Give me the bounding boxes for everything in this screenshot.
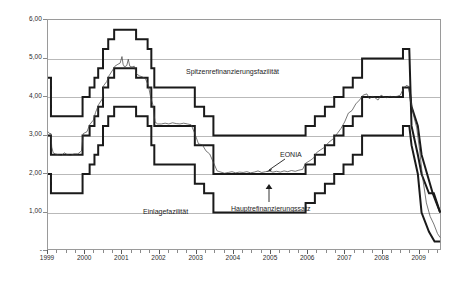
x-axis-minor-tick (103, 250, 104, 253)
x-axis-tick-label: 2006 (290, 255, 324, 262)
y-axis-tick-label: 1,00 (8, 208, 42, 215)
x-axis-minor-tick (93, 250, 94, 253)
y-axis-tick (43, 173, 47, 174)
x-axis-minor-tick (335, 250, 336, 253)
y-axis-tick (43, 212, 47, 213)
x-axis-tick-label: 2000 (67, 255, 101, 262)
x-axis-tick-label: 2003 (179, 255, 213, 262)
x-axis-tick-label: 2008 (365, 255, 399, 262)
chart-container: 6,005,004,003,002,001,00- 19992000200120… (0, 0, 465, 295)
x-axis-minor-tick (75, 250, 76, 253)
y-axis-tick (43, 58, 47, 59)
x-axis-tick-label: 2007 (327, 255, 361, 262)
x-axis-minor-tick (316, 250, 317, 253)
x-axis-minor-tick (400, 250, 401, 253)
y-axis-tick-label: - (8, 247, 42, 254)
x-axis-minor-tick (428, 250, 429, 253)
series-line-spitzenrefinanzierungsfazilitaet (48, 30, 440, 213)
x-axis-minor-tick (66, 250, 67, 253)
x-axis-minor-tick (391, 250, 392, 253)
x-axis-minor-tick (326, 250, 327, 253)
x-axis-minor-tick (140, 250, 141, 253)
x-axis-minor-tick (289, 250, 290, 253)
x-axis-minor-tick (205, 250, 206, 253)
x-axis-minor-tick (279, 250, 280, 253)
y-axis-tick-label: 4,00 (8, 93, 42, 100)
eonia-arrow-icon (265, 157, 287, 173)
y-axis-tick-label: 6,00 (8, 16, 42, 23)
x-axis-tick-label: 2004 (216, 255, 250, 262)
x-axis-minor-tick (409, 250, 410, 253)
x-axis-minor-tick (214, 250, 215, 253)
x-axis-tick (196, 250, 197, 254)
x-axis-tick (159, 250, 160, 254)
x-axis-minor-tick (298, 250, 299, 253)
x-axis-tick (270, 250, 271, 254)
plot-area (47, 19, 441, 250)
x-axis-minor-tick (112, 250, 113, 253)
y-axis-tick (43, 19, 47, 20)
annotation-hauptrefinanzierungssatz: Hauptrefinanzierungssatz (231, 205, 310, 212)
x-axis-minor-tick (186, 250, 187, 253)
x-axis-tick-label: 2001 (104, 255, 138, 262)
x-axis-minor-tick (224, 250, 225, 253)
x-axis-tick (419, 250, 420, 254)
x-axis-minor-tick (363, 250, 364, 253)
x-axis-tick-label: 1999 (30, 255, 64, 262)
series-layer (48, 20, 442, 251)
x-axis-minor-tick (149, 250, 150, 253)
x-axis-minor-tick (261, 250, 262, 253)
x-axis-minor-tick (168, 250, 169, 253)
y-axis-tick-label: 2,00 (8, 170, 42, 177)
x-axis-tick-label: 2005 (253, 255, 287, 262)
x-axis-tick-label: 2009 (402, 255, 436, 262)
annotation-einlagefazilitaet: Einlagefazilität (143, 208, 188, 215)
x-axis-tick (47, 250, 48, 254)
x-axis-minor-tick (177, 250, 178, 253)
x-axis-tick (344, 250, 345, 254)
x-axis-tick (382, 250, 383, 254)
y-axis-tick (43, 96, 47, 97)
x-axis-minor-tick (354, 250, 355, 253)
x-axis-tick (84, 250, 85, 254)
y-axis-tick-label: 3,00 (8, 131, 42, 138)
x-axis-minor-tick (131, 250, 132, 253)
x-axis-minor-tick (56, 250, 57, 253)
x-axis-tick (307, 250, 308, 254)
x-axis-tick-label: 2002 (142, 255, 176, 262)
series-line-hauptrefinanzierungssatz (48, 68, 440, 212)
y-axis-tick-label: 5,00 (8, 54, 42, 61)
x-axis-minor-tick (242, 250, 243, 253)
x-axis-minor-tick (437, 250, 438, 253)
annotation-spitzenrefinanzierungsfazilitaet: Spitzenrefinanzierungsfazilität (186, 68, 279, 75)
x-axis-tick (121, 250, 122, 254)
x-axis-minor-tick (372, 250, 373, 253)
y-axis-tick (43, 135, 47, 136)
x-axis-minor-tick (251, 250, 252, 253)
hauptrefinanzierungssatz-arrow-icon (264, 184, 274, 203)
x-axis-tick (233, 250, 234, 254)
